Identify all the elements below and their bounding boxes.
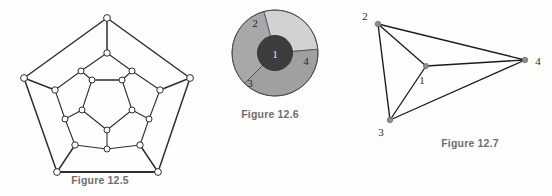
graph-vertex	[104, 50, 110, 56]
dual-vertex-2	[375, 21, 381, 27]
figure-12-7-panel: 1 2 3 4 Figure 12.7	[340, 0, 552, 196]
region-2-label: 2	[252, 18, 257, 29]
dual-graph-edges	[378, 24, 525, 120]
dual-edge-2-3	[378, 24, 390, 120]
graph-vertex	[52, 87, 58, 93]
region-3-label: 3	[247, 78, 252, 89]
dual-vertex-1-label: 1	[419, 74, 425, 86]
graph-vertex	[89, 77, 95, 83]
figure-12-7-caption: Figure 12.7	[364, 137, 552, 149]
graph-vertex	[72, 142, 78, 148]
graph-vertex	[146, 116, 152, 122]
region-4-label: 4	[303, 56, 309, 67]
graph-vertex	[78, 68, 84, 74]
graph-vertex	[157, 87, 163, 93]
region-map: 2 3 4 1	[200, 0, 340, 110]
graph-vertex	[104, 127, 110, 133]
dual-edge-2-4	[378, 24, 525, 60]
graph-vertex	[129, 68, 135, 74]
figure-12-6-panel: 2 3 4 1 Figure 12.6	[200, 0, 340, 196]
graph-vertex	[62, 116, 68, 122]
figure-12-5-panel: Figure 12.5	[0, 0, 200, 196]
graph-vertex	[129, 107, 135, 113]
graph-vertex	[119, 77, 125, 83]
figure-sheet: Figure 12.5 2 3 4 1 Figure 12.6	[0, 0, 552, 196]
graph-vertex	[104, 146, 110, 152]
dual-vertex-3	[387, 117, 393, 123]
graph-vertex	[187, 75, 194, 82]
dodecahedral-graph	[0, 0, 200, 196]
graph-vertex	[21, 75, 28, 82]
graph-vertex	[137, 142, 143, 148]
figure-12-5-caption: Figure 12.5	[0, 174, 200, 186]
region-1-label: 1	[272, 49, 277, 60]
dual-graph: 1 2 3 4	[340, 0, 552, 140]
dual-vertex-4-label: 4	[535, 55, 541, 67]
dual-vertex-2-label: 2	[362, 10, 368, 22]
graph-vertex	[79, 107, 85, 113]
graph-vertex	[104, 15, 111, 22]
figure-12-6-caption: Figure 12.6	[200, 108, 340, 120]
dual-vertex-4	[522, 57, 528, 63]
dual-vertex-1	[423, 63, 428, 68]
dual-edge-1-4	[426, 60, 525, 66]
